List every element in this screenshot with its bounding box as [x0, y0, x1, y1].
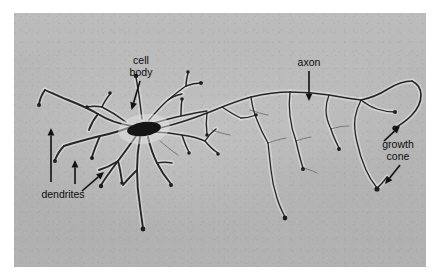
annotation-group: cellbodydendritesaxongrowthcone [41, 54, 414, 200]
annotation-arrow-head-axon-0 [306, 94, 313, 102]
annotation-axon: axon [298, 56, 321, 101]
annotation-label-cell-body: cell [133, 54, 149, 66]
annotation-label-cell-body: body [130, 66, 154, 78]
annotation-label-growth-cone: cone [387, 150, 410, 162]
annotation-label-growth-cone: growth [382, 138, 414, 150]
annotation-arrow-shaft-growth-cone-1 [390, 165, 400, 178]
annotation-arrow-head-dendrites-1 [72, 160, 79, 168]
annotation-layer: cellbodydendritesaxongrowthcone [0, 0, 438, 279]
annotation-arrow-head-dendrites-0 [48, 128, 55, 136]
annotation-growth-cone: growthcone [382, 126, 414, 184]
annotation-dendrites: dendrites [41, 128, 104, 200]
annotation-label-dendrites: dendrites [41, 188, 84, 200]
annotation-cell-body: cellbody [130, 54, 154, 110]
annotation-arrow-head-cell-body-0 [130, 102, 137, 110]
annotation-arrow-shaft-cell-body-0 [134, 81, 140, 103]
annotation-label-axon: axon [298, 56, 321, 68]
